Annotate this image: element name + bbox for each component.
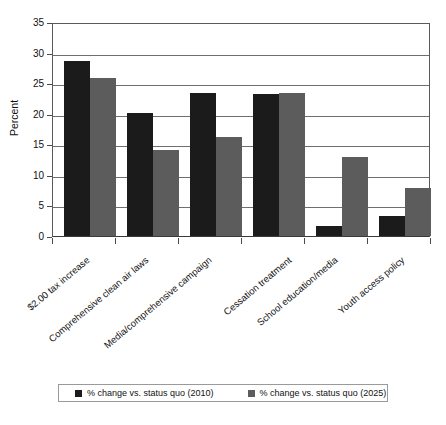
bar-series1-cat3 [279, 93, 305, 236]
legend-label-series1: % change vs. status quo (2025) [260, 389, 387, 398]
x-tick-mark [304, 238, 305, 244]
legend-entry-1: % change vs. status quo (2025) [248, 389, 387, 398]
y-tick-label-0: 0 [0, 232, 44, 242]
bar-series0-cat5 [379, 216, 405, 236]
bar-series1-cat4 [342, 157, 368, 237]
bar-series0-cat0 [64, 61, 90, 237]
legend-swatch-icon-series0 [75, 390, 82, 397]
y-tick-label-10: 10 [0, 171, 44, 181]
y-axis: 35 30 25 20 15 10 5 0 Percent [0, 0, 52, 425]
y-axis-title: Percent [8, 78, 20, 158]
x-tick-mark [178, 238, 179, 244]
y-tick-label-5: 5 [0, 201, 44, 211]
x-tick-mark [52, 238, 53, 244]
x-tick-mark [241, 238, 242, 244]
bar-series1-cat2 [216, 137, 242, 236]
bar-series1-cat1 [153, 150, 179, 236]
legend-label-series0: % change vs. status quo (2010) [87, 389, 214, 398]
bar-series0-cat2 [190, 93, 216, 236]
bar-series1-cat0 [90, 78, 116, 236]
legend-swatch-icon-series1 [248, 390, 255, 397]
bar-series0-cat3 [253, 94, 279, 237]
y-tick-label-15: 15 [0, 140, 44, 150]
bar-series0-cat4 [316, 226, 342, 236]
x-tick-mark [430, 238, 431, 244]
plot-area [52, 23, 430, 237]
bar-series1-cat5 [405, 188, 431, 236]
x-tick-mark [367, 238, 368, 244]
x-tick-mark [115, 238, 116, 244]
gridline-30 [53, 55, 429, 56]
legend-entry-0: % change vs. status quo (2010) [75, 389, 214, 398]
y-tick-label-25: 25 [0, 79, 44, 89]
bar-chart: 35 30 25 20 15 10 5 0 Percent [0, 0, 446, 425]
y-tick-label-20: 20 [0, 110, 44, 120]
y-tick-label-30: 30 [0, 49, 44, 59]
bar-series0-cat1 [127, 113, 153, 236]
legend: % change vs. status quo (2010) % change … [58, 384, 388, 402]
x-axis-label-5: Youth access policy [285, 254, 407, 359]
y-tick-label-35: 35 [0, 18, 44, 28]
